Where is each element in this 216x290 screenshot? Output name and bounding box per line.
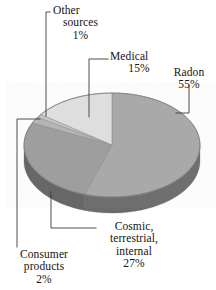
slice-label-consumer-products: Consumer products 2% [5, 248, 83, 285]
pie-chart-figure: Other sources 1% Medical 15% Radon 55% C… [0, 0, 216, 290]
label-text: internal [98, 245, 170, 257]
label-percent: 55% [163, 78, 215, 90]
label-text: Medical [110, 50, 172, 62]
label-percent: 27% [98, 257, 170, 269]
leader-line-other-sources [46, 12, 50, 116]
label-text: Cosmic, [98, 220, 170, 232]
label-percent: 2% [5, 273, 83, 285]
label-text: Radon [163, 66, 215, 78]
label-text: products [5, 260, 83, 272]
label-text: sources [52, 16, 109, 28]
label-percent: 15% [110, 62, 168, 74]
label-text: terrestrial, [98, 232, 170, 244]
slice-label-other-sources: Other sources 1% [52, 4, 116, 41]
slice-label-radon: Radon 55% [163, 66, 215, 91]
slice-label-cosmic-terrestrial-internal: Cosmic, terrestrial, internal 27% [98, 220, 170, 270]
label-percent: 1% [52, 29, 109, 41]
label-text: Other [52, 4, 116, 16]
pie-top-face-generated [24, 93, 200, 197]
label-text: Consumer [5, 248, 83, 260]
